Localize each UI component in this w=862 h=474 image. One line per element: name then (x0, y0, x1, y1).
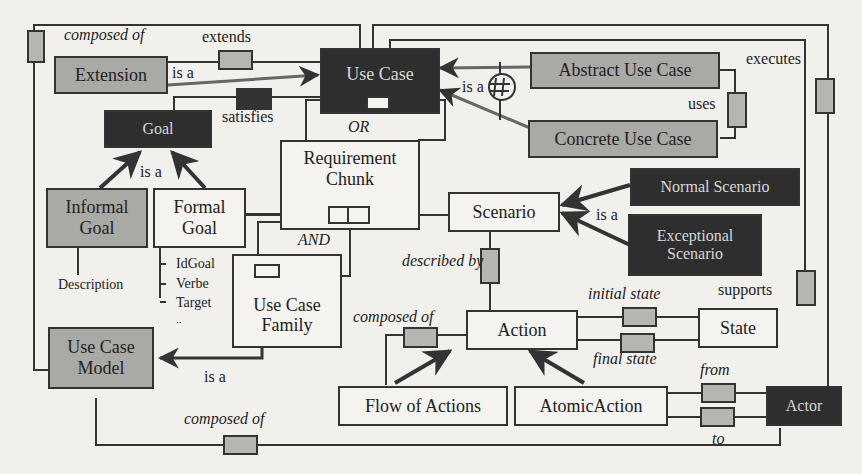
label-initial-state: initial state (588, 285, 660, 303)
node-exceptional-scenario-label: Exceptional Scenario (630, 227, 760, 264)
requirement-chunk-slot-divider (347, 206, 349, 224)
label-or: OR (348, 118, 369, 136)
use-case-family-slot (254, 264, 280, 278)
node-extension[interactable]: Extension (54, 56, 168, 94)
from-connector-icon (701, 383, 736, 403)
label-satisfies: satisfies (222, 108, 274, 126)
use-case-slot (366, 96, 390, 110)
label-and: AND (298, 231, 330, 249)
label-supports: supports (718, 281, 772, 299)
satisfies-connector-icon (236, 88, 272, 110)
node-formal-goal[interactable]: Formal Goal (153, 188, 246, 248)
node-exceptional-scenario[interactable]: Exceptional Scenario (628, 214, 762, 276)
node-use-case-label: Use Case (346, 64, 413, 85)
node-scenario[interactable]: Scenario (448, 192, 560, 232)
composed-of-bottom-connector-icon (223, 435, 258, 455)
label-final-state: final state (593, 350, 657, 368)
node-informal-goal-label: Informal Goal (48, 197, 146, 238)
node-abstract-use-case-label: Abstract Use Case (559, 60, 692, 81)
node-action[interactable]: Action (466, 310, 578, 350)
uses-connector-icon (727, 92, 747, 128)
label-is-a-goal: is a (140, 163, 162, 181)
node-goal[interactable]: Goal (104, 110, 212, 148)
node-normal-scenario[interactable]: Normal Scenario (630, 168, 800, 206)
node-action-label: Action (498, 320, 547, 341)
node-abstract-use-case[interactable]: Abstract Use Case (530, 52, 720, 89)
node-scenario-label: Scenario (473, 202, 536, 223)
label-to: to (712, 430, 724, 448)
node-extension-label: Extension (75, 65, 147, 86)
composed-of-action-connector-icon (403, 327, 438, 348)
attr-target: Target (176, 295, 211, 311)
node-requirement-chunk-label: Requirement Chunk (282, 148, 418, 189)
requirement-chunk-slot (328, 206, 370, 224)
label-described-by: described by (402, 252, 483, 270)
label-is-a-scenario: is a (596, 206, 618, 224)
label-composed-of-top: composed of (64, 26, 144, 44)
label-uses: uses (688, 95, 716, 113)
node-flow-of-actions-label: Flow of Actions (365, 396, 481, 417)
extends-connector-icon (218, 50, 253, 70)
node-actor[interactable]: Actor (766, 386, 842, 426)
to-connector-icon (700, 407, 735, 427)
node-state-label: State (720, 318, 756, 339)
supports-connector-icon (796, 270, 816, 306)
label-from: from (700, 361, 730, 379)
node-flow-of-actions[interactable]: Flow of Actions (338, 386, 508, 426)
node-use-case-model-label: Use Case Model (50, 337, 152, 378)
label-composed-of-bottom: composed of (184, 410, 264, 428)
composed-of-connector-icon (27, 30, 45, 63)
node-informal-goal[interactable]: Informal Goal (46, 188, 148, 248)
label-extends: extends (202, 28, 251, 46)
node-use-case-family[interactable]: Use Case Family (232, 254, 342, 348)
node-normal-scenario-label: Normal Scenario (661, 178, 770, 196)
executes-connector-icon (815, 78, 835, 114)
node-use-case-model[interactable]: Use Case Model (48, 327, 154, 389)
attr-description: Description (58, 277, 123, 293)
node-atomic-action-label: AtomicAction (540, 396, 643, 417)
node-atomic-action[interactable]: AtomicAction (514, 386, 668, 426)
attr-ellipsis: .. (176, 313, 182, 325)
attr-idgoal: IdGoal (176, 256, 215, 272)
node-concrete-use-case[interactable]: Concrete Use Case (528, 120, 718, 158)
label-is-a-extension: is a (172, 64, 194, 82)
node-concrete-use-case-label: Concrete Use Case (555, 129, 692, 150)
initial-state-connector-icon (622, 307, 657, 327)
node-state[interactable]: State (698, 308, 778, 348)
node-formal-goal-label: Formal Goal (155, 197, 244, 238)
attr-verbe: Verbe (176, 276, 209, 292)
label-composed-of-action: composed of (353, 308, 433, 326)
label-is-a-use-case: is a (462, 78, 484, 96)
label-executes: executes (746, 50, 801, 68)
node-goal-label: Goal (142, 120, 173, 138)
label-is-a-family: is a (204, 368, 226, 386)
node-actor-label: Actor (786, 397, 822, 415)
node-use-case-family-label: Use Case Family (234, 295, 340, 336)
